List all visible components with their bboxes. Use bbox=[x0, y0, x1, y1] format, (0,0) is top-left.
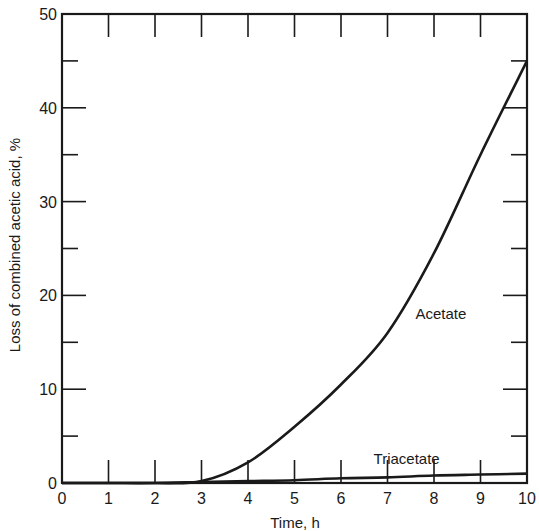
x-tick-label: 2 bbox=[151, 490, 160, 507]
y-tick-label: 50 bbox=[39, 6, 57, 23]
plot-border bbox=[62, 14, 527, 483]
chart-canvas: 01234567891001020304050 AcetateTriacetat… bbox=[0, 0, 539, 531]
axis-ticks bbox=[62, 14, 527, 483]
x-axis-title: Time, h bbox=[270, 514, 319, 531]
x-tick-label: 3 bbox=[197, 490, 206, 507]
series-acetate bbox=[62, 61, 527, 483]
y-tick-label: 20 bbox=[39, 287, 57, 304]
series-lines bbox=[62, 61, 527, 483]
x-tick-label: 5 bbox=[290, 490, 299, 507]
y-tick-label: 40 bbox=[39, 100, 57, 117]
x-tick-label: 7 bbox=[383, 490, 392, 507]
label-acetate: Acetate bbox=[415, 305, 466, 322]
x-tick-label: 9 bbox=[476, 490, 485, 507]
plot-frame bbox=[62, 14, 527, 483]
label-triacetate: Triacetate bbox=[374, 450, 440, 467]
y-tick-label: 30 bbox=[39, 194, 57, 211]
y-axis-title: Loss of combined acetic acid, % bbox=[6, 138, 23, 352]
x-tick-label: 6 bbox=[337, 490, 346, 507]
x-tick-label: 10 bbox=[518, 490, 536, 507]
y-tick-label: 0 bbox=[48, 475, 57, 492]
x-tick-label: 0 bbox=[58, 490, 67, 507]
x-tick-label: 1 bbox=[104, 490, 113, 507]
x-tick-label: 4 bbox=[244, 490, 253, 507]
y-tick-label: 10 bbox=[39, 381, 57, 398]
x-tick-label: 8 bbox=[430, 490, 439, 507]
series-labels: AcetateTriacetate bbox=[374, 305, 467, 467]
